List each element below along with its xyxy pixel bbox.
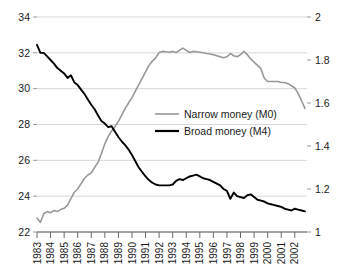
right-axis-tick-label: 1 — [315, 226, 321, 238]
left-axis-tick-label: 24 — [18, 190, 30, 202]
chart-legend: Narrow money (M0)Broad money (M4) — [155, 108, 277, 137]
x-axis-tick-label: 2000 — [262, 242, 273, 265]
right-axis-tick-label: 1.2 — [315, 183, 330, 195]
left-axis-tick-label: 30 — [18, 82, 30, 94]
left-axis-tick-label: 22 — [18, 226, 30, 238]
x-axis-tick-label: 1995 — [194, 242, 205, 265]
x-axis-tick-label: 1984 — [45, 242, 56, 265]
x-axis-tick-label: 1998 — [235, 242, 246, 265]
legend-label: Broad money (M4) — [184, 125, 271, 137]
x-axis-tick-label: 1989 — [113, 242, 124, 265]
right-axis-tick-label: 2 — [315, 11, 321, 23]
x-axis-tick-label: 1999 — [249, 242, 260, 265]
money-aggregates-line-chart: 22242628303234 11.21.41.61.82 1983198419… — [0, 0, 346, 279]
x-axis-tick-label: 1994 — [181, 242, 192, 265]
x-axis-tick-label: 1991 — [140, 242, 151, 265]
x-axis-tick-label: 1992 — [154, 242, 165, 265]
x-axis-tick-label: 1987 — [86, 242, 97, 265]
x-axis-tick-label: 1993 — [167, 242, 178, 265]
right-axis: 11.21.41.61.82 — [307, 11, 330, 238]
x-axis-tick-label: 1985 — [59, 242, 70, 265]
left-axis-tick-label: 26 — [18, 154, 30, 166]
x-axis-tick-label: 1996 — [208, 242, 219, 265]
right-axis-tick-label: 1.6 — [315, 97, 330, 109]
x-axis-tick-label: 1983 — [32, 242, 43, 265]
x-axis-tick-label: 1997 — [222, 242, 233, 265]
x-axis-tick-label: 2001 — [276, 242, 287, 265]
left-axis-tick-label: 32 — [18, 47, 30, 59]
x-axis-tick-label: 1990 — [127, 242, 138, 265]
legend-label: Narrow money (M0) — [184, 108, 277, 120]
x-axis-tick-label: 1988 — [99, 242, 110, 265]
x-axis: 1983198419851986198719881989199019911992… — [32, 232, 307, 264]
x-axis-tick-label: 2002 — [289, 242, 300, 265]
left-axis: 22242628303234 — [18, 11, 37, 238]
chart-container: 22242628303234 11.21.41.61.82 1983198419… — [0, 0, 346, 279]
left-axis-tick-label: 28 — [18, 118, 30, 130]
gridlines — [37, 17, 307, 196]
right-axis-tick-label: 1.8 — [315, 54, 330, 66]
left-axis-tick-label: 34 — [18, 11, 30, 23]
right-axis-tick-label: 1.4 — [315, 140, 330, 152]
x-axis-tick-label: 1986 — [72, 242, 83, 265]
